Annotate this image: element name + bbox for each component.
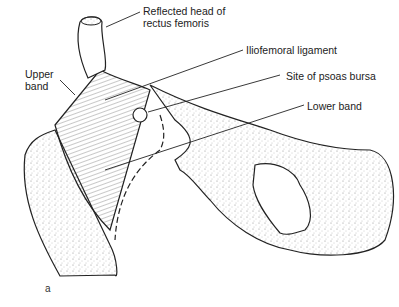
label-iliofemoral-ligament: Iliofemoral ligament	[246, 44, 337, 56]
label-reflected-head: Reflected head of rectus femoris	[143, 5, 225, 29]
hip-ligament-illustration	[0, 0, 399, 307]
reflected-head-cut	[81, 17, 101, 25]
label-upper-band: Upper band	[25, 68, 54, 92]
reflected-head	[78, 17, 106, 78]
psoas-bursa-circle	[133, 108, 147, 122]
label-psoas-bursa: Site of psoas bursa	[286, 70, 376, 82]
panel-label: a	[45, 283, 51, 294]
label-lower-band: Lower band	[307, 100, 362, 112]
